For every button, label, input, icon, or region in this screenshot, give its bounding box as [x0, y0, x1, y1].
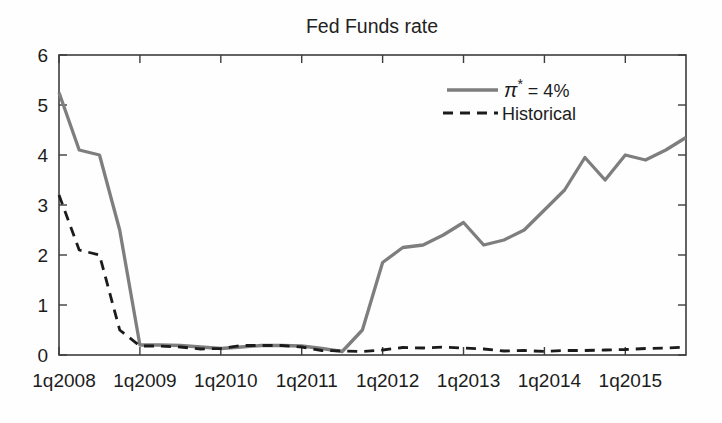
x-tick-label: 1q2008	[32, 370, 95, 391]
axis-ticks	[59, 55, 686, 355]
legend-label-pi-star: π* = 4%	[504, 76, 569, 101]
x-tick-label: 1q2013	[437, 370, 500, 391]
y-tick-label: 5	[37, 95, 48, 116]
x-axis-tick-labels: 1q20081q20091q20101q20111q20121q20131q20…	[32, 370, 662, 391]
x-tick-label: 1q2012	[356, 370, 419, 391]
x-tick-label: 1q2011	[276, 370, 338, 391]
x-tick-label: 1q2015	[599, 370, 662, 391]
chart-title: Fed Funds rate	[306, 15, 438, 37]
y-tick-label: 3	[37, 195, 48, 216]
fed-funds-line-chart: Fed Funds rate 0123456 1q20081q20091q201…	[0, 0, 722, 423]
data-series-lines	[59, 93, 686, 352]
y-tick-label: 4	[37, 145, 48, 166]
y-tick-label: 2	[37, 245, 48, 266]
plot-area-border	[59, 55, 686, 355]
y-tick-label: 6	[37, 45, 48, 66]
series-line-pi-star-4pct	[59, 93, 686, 352]
series-line-historical	[59, 195, 686, 352]
y-tick-label: 0	[37, 345, 48, 366]
legend: π* = 4% Historical	[443, 76, 576, 124]
fed-funds-chart-figure: Fed Funds rate 0123456 1q20081q20091q201…	[0, 0, 722, 423]
y-axis-tick-labels: 0123456	[37, 45, 48, 366]
x-tick-label: 1q2014	[518, 370, 582, 391]
legend-label-historical: Historical	[502, 104, 576, 124]
x-tick-label: 1q2009	[113, 370, 176, 391]
x-tick-label: 1q2010	[194, 370, 257, 391]
y-tick-label: 1	[37, 295, 48, 316]
